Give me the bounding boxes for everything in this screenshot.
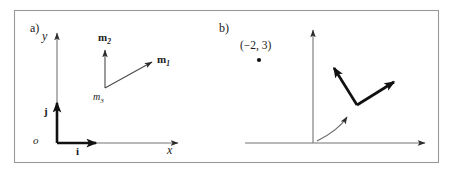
m-vector-1 — [105, 62, 152, 88]
rotated-vector-b — [357, 82, 394, 105]
basis-vector-i-label: i — [76, 146, 79, 157]
panel-a-origin-label: o — [33, 135, 39, 146]
m-vector-2-label: m2 — [98, 32, 111, 46]
rotation-arc-arrow — [317, 117, 347, 141]
panel-a-basis-vectors — [57, 103, 96, 143]
panel-b-axes — [245, 30, 425, 143]
m-vector-1-label-text: m — [157, 53, 166, 65]
m-vector-1-label-sub: 1 — [166, 59, 170, 68]
basis-vector-j-label: j — [44, 106, 48, 117]
m-vector-1-label: m1 — [157, 54, 170, 68]
m-vector-2-label-text: m — [98, 31, 107, 43]
panel-b-rotated-frame — [334, 68, 394, 105]
m-frame-origin-label: m3 — [93, 92, 104, 105]
panel-b-point-marker — [257, 58, 261, 62]
panel-a-y-axis-label: y — [42, 30, 47, 42]
panel-a-axes — [57, 33, 178, 143]
panel-a-x-axis-label: x — [167, 144, 172, 156]
m-frame-origin-label-sub: 3 — [100, 97, 104, 105]
figure-canvas: a) y x o j i m2 m1 m3 b) (−2, 3) — [0, 0, 452, 175]
panel-a-m-frame — [105, 50, 152, 88]
panel-a-tag: a) — [30, 22, 39, 34]
m-vector-2-label-sub: 2 — [107, 37, 111, 46]
panel-b-tag: b) — [219, 22, 229, 34]
panel-b-point-label: (−2, 3) — [240, 40, 271, 52]
rotated-vector-a — [334, 68, 357, 105]
